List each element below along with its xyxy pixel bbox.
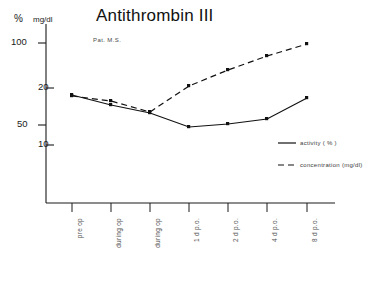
legend-label-activity: activity ( % ) (300, 140, 337, 146)
x-tick-label-5: 4 d p.o. (271, 218, 278, 242)
x-tick-label-6: 8 d p.o. (311, 218, 318, 242)
x-tick-label-2: during op (154, 218, 161, 248)
axis-lines (38, 24, 335, 203)
legend-label-concentration: concentration (mg/dl) (300, 162, 363, 168)
x-tick-label-3: 1 d p.o. (193, 218, 200, 242)
series-concentration-markers (70, 42, 308, 113)
legend (278, 143, 296, 165)
x-tick-label-4: 2 d p.o. (232, 218, 239, 242)
x-tick-marks (72, 203, 307, 212)
series-concentration-line (72, 44, 307, 112)
series-activity-markers (70, 93, 308, 128)
series-activity-line (72, 95, 307, 127)
chart-figure: Antithrombin III Pat. M.S. % mg/dl 100 5… (0, 0, 385, 283)
x-tick-label-1: during op (115, 218, 122, 248)
x-tick-label-0: pre op (76, 218, 83, 238)
